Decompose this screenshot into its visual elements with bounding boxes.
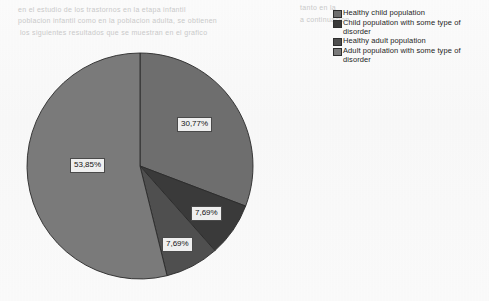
slice-label-adult-disorder: 53,85% [70,158,105,173]
legend-item-healthy-adult: Healthy adult population [333,37,485,46]
pie-chart-svg [24,50,256,282]
legend-swatch-icon-child-disorder [333,20,342,28]
pie-chart [24,50,256,282]
legend-swatch-icon-healthy-child [333,10,342,18]
chart-legend: Healthy child population Child populatio… [333,9,485,65]
chart-page: en el estudio de los trastornos en la et… [0,0,489,301]
bleed-text-line-3: poblacion infantil como en la poblacion … [18,17,217,24]
legend-label-adult-disorder: Adult population with some type of disor… [343,47,485,64]
legend-swatch-icon-healthy-adult [333,38,342,46]
legend-item-child-disorder: Child population with some type of disor… [333,19,485,36]
slice-label-child-disorder: 7,69% [191,206,222,221]
legend-item-adult-disorder: Adult population with some type of disor… [333,47,485,64]
pie-slice-group [27,53,253,279]
slice-label-healthy-adult: 7,69% [162,237,193,252]
legend-label-healthy-adult: Healthy adult population [343,37,426,46]
bleed-text-line-2: tanto en la [300,4,336,11]
legend-swatch-icon-adult-disorder [333,48,342,56]
legend-label-healthy-child: Healthy child population [343,9,425,18]
slice-label-healthy-child: 30,77% [177,117,212,132]
legend-label-child-disorder: Child population with some type of disor… [343,19,485,36]
bleed-text-line-1: en el estudio de los trastornos en la et… [18,6,186,13]
legend-item-healthy-child: Healthy child population [333,9,485,18]
bleed-text-line-4: los siguientes resultados que se muestra… [20,29,207,36]
